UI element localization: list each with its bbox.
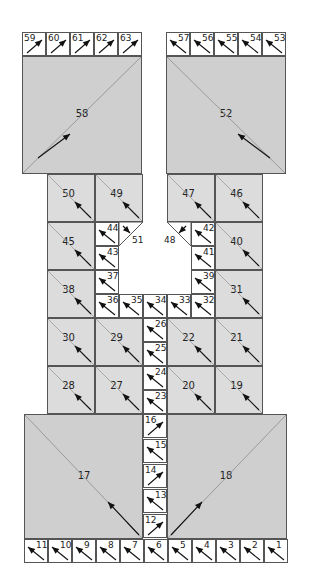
square-28-label: 28 [62,381,75,391]
center-cell-23-label: 23 [155,392,166,401]
inner-cell-32-label: 32 [203,296,214,305]
square-46-label: 46 [230,189,243,199]
arrow-icon [179,226,186,233]
big-square-label: 17 [78,471,91,481]
center-cell-15-label: 15 [155,441,166,450]
strip-cell-56-label: 56 [202,34,213,43]
strip-cell-60-label: 60 [48,34,59,43]
strip-cell-61-label: 61 [72,34,83,43]
inner-cell-43-label: 43 [107,248,118,257]
strip-cell-1-label: 1 [276,541,282,550]
strip-cell-6-label: 6 [156,541,162,550]
square-29-label: 29 [110,333,123,343]
strip-cell-7-label: 7 [132,541,138,550]
square-40-label: 40 [230,237,243,247]
strip-cell-5-label: 5 [180,541,186,550]
square-20-label: 20 [182,381,195,391]
strip-cell-53-label: 53 [274,34,285,43]
arrow-icon [123,226,130,233]
triangle-label: 51 [132,236,143,245]
center-cell-14-label: 14 [145,466,156,475]
inner-cell-42-label: 42 [203,224,214,233]
center-cell-25-label: 25 [155,344,166,353]
strip-cell-3-label: 3 [228,541,234,550]
square-49-label: 49 [110,189,123,199]
strip-cell-2-label: 2 [252,541,258,550]
inner-cell-37-label: 37 [107,272,118,281]
inner-cell-36-label: 36 [107,296,118,305]
center-cell-24-label: 24 [155,368,166,377]
square-38-label: 38 [62,285,75,295]
strip-cell-4-label: 4 [204,541,210,550]
center-cell-13-label: 13 [155,491,166,500]
inner-cell-39-label: 39 [203,272,214,281]
strip-cell-57-label: 57 [178,34,189,43]
big-square-label: 18 [220,471,233,481]
strip-cell-55-label: 55 [226,34,237,43]
square-31-label: 31 [230,285,243,295]
square-50-label: 50 [62,189,75,199]
square-19-label: 19 [230,381,243,391]
inner-cell-33-label: 33 [179,296,190,305]
square-21-label: 21 [230,333,243,343]
strip-cell-10-label: 10 [60,541,71,550]
inner-cell-35-label: 35 [131,296,142,305]
big-square-label: 52 [220,109,233,119]
square-45-label: 45 [62,237,75,247]
big-square-label: 58 [76,109,89,119]
square-22-label: 22 [182,333,195,343]
strip-cell-54-label: 54 [250,34,261,43]
center-cell-26-label: 26 [155,320,166,329]
center-cell-16-label: 16 [145,416,156,425]
strip-cell-9-label: 9 [84,541,90,550]
triangle-label: 48 [164,236,175,245]
square-47-label: 47 [182,189,195,199]
inner-cell-44-label: 44 [107,224,118,233]
strip-cell-59-label: 59 [24,34,35,43]
strip-cell-62-label: 62 [96,34,107,43]
center-cell-12-label: 12 [145,516,156,525]
strip-cell-8-label: 8 [108,541,114,550]
inner-cell-34-label: 34 [155,296,166,305]
inner-cell-41-label: 41 [203,248,214,257]
strip-cell-11-label: 11 [36,541,47,550]
square-30-label: 30 [62,333,75,343]
strip-cell-63-label: 63 [120,34,131,43]
square-27-label: 27 [110,381,123,391]
